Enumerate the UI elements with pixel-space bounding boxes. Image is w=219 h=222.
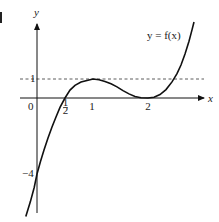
origin-label: 0 bbox=[28, 100, 34, 112]
x-tick-half-den: 2 bbox=[63, 104, 69, 116]
margin-mark bbox=[0, 12, 2, 23]
curve-f bbox=[26, 22, 194, 217]
y-tick-neg4: −4 bbox=[22, 167, 34, 179]
x-tick-2: 2 bbox=[145, 100, 151, 112]
x-tick-1: 1 bbox=[89, 100, 95, 112]
curve-label: y = f(x) bbox=[147, 29, 181, 42]
x-axis-label: x bbox=[207, 92, 213, 104]
graph-figure: y x 0 1 −4 1 2 1 2 y = f(x) bbox=[0, 0, 219, 222]
y-axis-label: y bbox=[33, 6, 39, 18]
y-tick-1: 1 bbox=[30, 72, 36, 84]
curve-label-text: y = f(x) bbox=[147, 29, 181, 42]
